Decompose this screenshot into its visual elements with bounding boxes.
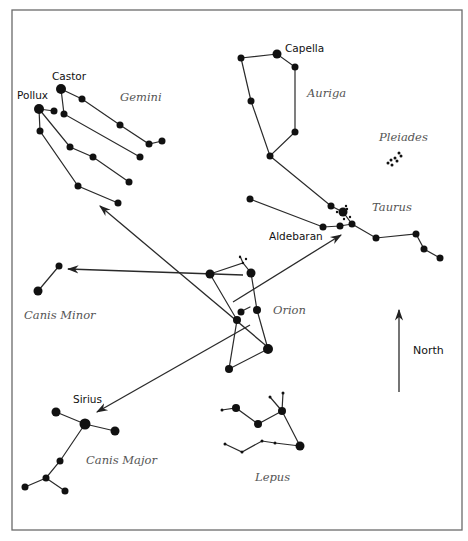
auriga-star-icon [247,196,254,203]
canis-major-star-icon [52,408,61,417]
gemini-star-icon [117,122,124,129]
lepus-star-icon [282,392,285,395]
canis-major-star-icon [62,488,69,495]
orion-star-icon [253,306,261,314]
pleiades-faint-star-icon [394,157,397,160]
gemini-star-icon [61,111,68,118]
gemini-star-icon [79,96,86,103]
star-label-capella: Capella [285,42,324,54]
auriga-faint-star-icon [343,218,345,220]
auriga-star-icon [292,64,299,71]
canis-major-star-icon [111,427,120,436]
lepus-star-icon [224,443,227,446]
auriga-star-icon [238,55,245,62]
constellation-label-taurus: Taurus [372,200,412,214]
star-label-castor: Castor [52,70,87,82]
gemini-star-icon [67,144,74,151]
lepus-star-icon [254,420,262,428]
pleiades-faint-star-icon [398,152,401,155]
auriga-faint-star-icon [349,216,351,218]
star-label-aldebaran: Aldebaran [269,230,323,242]
auriga-star-icon [373,235,380,242]
gemini-star-icon [75,183,82,190]
constellation-label-auriga: Auriga [306,86,346,100]
orion-star-icon [239,256,241,258]
north-label: North [413,344,444,357]
auriga-star-icon [337,223,344,230]
canis-major-star-icon [22,484,29,491]
pleiades-faint-star-icon [387,162,390,165]
auriga-star-icon [421,246,428,253]
auriga-star-icon [328,203,335,210]
gemini-star-icon [115,200,122,207]
gemini-star-icon [90,154,97,161]
auriga-star-icon [267,153,274,160]
constellation-label-pleiades: Pleiades [378,130,428,144]
constellation-label-orion: Orion [273,303,306,317]
orion-star-icon [238,309,245,316]
constellation-label-lepus: Lepus [254,470,290,484]
canis-major-star-icon [80,419,91,430]
auriga-faint-star-icon [345,205,347,207]
star-chart: North CastorPolluxCapellaAldebaranSirius… [0,0,468,541]
lepus-star-icon [241,451,244,454]
constellation-label-gemini: Gemini [120,90,162,104]
orion-star-icon [225,365,233,373]
canis-minor-star-icon [56,263,63,270]
pleiades-faint-star-icon [396,160,399,163]
gemini-star-icon [56,84,66,94]
lepus-star-icon [232,404,240,412]
pleiades-faint-star-icon [400,155,403,158]
auriga-faint-star-icon [346,208,348,210]
orion-star-icon [245,258,247,260]
orion-star-icon [247,269,256,278]
constellation-label-canis-minor: Canis Minor [24,308,97,322]
gemini-star-icon [51,108,58,115]
auriga-star-icon [248,98,255,105]
lepus-star-icon [296,442,305,451]
lepus-star-icon [278,407,286,415]
orion-star-icon [263,344,273,354]
lepus-star-icon [269,396,272,399]
pleiades-faint-star-icon [390,159,393,162]
auriga-star-icon [437,255,444,262]
gemini-star-icon [137,154,144,161]
lepus-star-icon [261,440,264,443]
orion-star-icon [242,262,244,264]
orion-star-icon [233,316,241,324]
auriga-star-icon [273,50,282,59]
constellation-label-canis-major: Canis Major [86,453,158,467]
auriga-star-icon [413,231,420,238]
lepus-star-icon [274,442,277,445]
orion-star-icon [206,270,215,279]
gemini-star-icon [126,179,133,186]
canis-minor-star-icon [34,287,43,296]
auriga-faint-star-icon [336,211,338,213]
pleiades-faint-star-icon [391,164,394,167]
gemini-star-icon [37,128,44,135]
gemini-star-icon [159,138,166,145]
star-label-sirius: Sirius [73,393,102,405]
canis-major-star-icon [43,475,50,482]
canis-major-star-icon [57,458,64,465]
star-label-pollux: Pollux [17,89,48,101]
gemini-star-icon [146,141,153,148]
lepus-star-icon [221,409,224,412]
gemini-star-icon [34,104,44,114]
auriga-star-icon [292,129,299,136]
auriga-star-icon [349,221,356,228]
